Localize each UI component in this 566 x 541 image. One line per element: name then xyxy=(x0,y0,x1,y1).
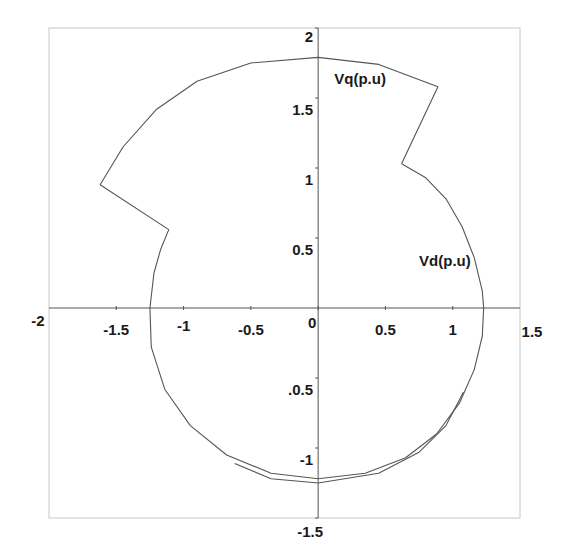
axes xyxy=(49,28,520,518)
data-series xyxy=(100,57,484,483)
series-trajectory-outer-arc xyxy=(235,392,464,483)
x-tick-label: 0 xyxy=(308,314,316,331)
y-tick-label: 2 xyxy=(305,28,313,45)
annotations: Vq(p.u)Vd(p.u) xyxy=(334,70,470,269)
plot-frame xyxy=(49,28,520,518)
x-tick-label: -1.5 xyxy=(103,321,129,338)
y-tick-label: -1.5 xyxy=(297,523,323,540)
y-tick-label: 0.5 xyxy=(292,241,313,258)
x-tick-label: 1 xyxy=(449,321,457,338)
vq-axis-annotation: Vq(p.u) xyxy=(334,70,386,87)
x-tick-label: -1 xyxy=(177,317,190,334)
vd-axis-annotation: Vd(p.u) xyxy=(419,252,471,269)
tick-labels: -2-1.5-1-0.500.511.521.510.5.0.5-1-1.5 xyxy=(31,28,542,540)
y-tick-label: -1 xyxy=(300,451,313,468)
x-tick-label: 1.5 xyxy=(522,323,543,340)
x-tick-label: -0.5 xyxy=(238,321,264,338)
x-tick-label: 0.5 xyxy=(375,321,396,338)
vd-vq-trajectory-chart: -2-1.5-1-0.500.511.521.510.5.0.5-1-1.5 V… xyxy=(0,0,566,541)
y-tick-label: 1 xyxy=(305,171,313,188)
y-tick-label: 1.5 xyxy=(292,101,313,118)
y-tick-label: .0.5 xyxy=(288,381,313,398)
x-tick-label: -2 xyxy=(31,312,44,329)
